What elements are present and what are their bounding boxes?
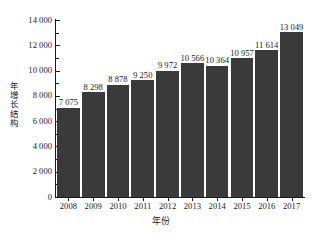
bar-item: 8 878 — [107, 20, 130, 197]
bar-rect — [255, 50, 278, 197]
figure-caption — [0, 236, 321, 247]
bar-rect — [131, 80, 154, 197]
bar-item: 13 049 — [280, 20, 303, 197]
x-tick-label: 2016 — [258, 201, 275, 211]
plot-area: 7 0758 2988 8789 2509 97210 56610 36410 … — [56, 20, 304, 197]
y-tick-label: 8 000 — [33, 91, 52, 100]
bar-value-label: 8 878 — [108, 75, 127, 84]
bar-rect — [206, 66, 229, 197]
bar-item: 10 364 — [206, 20, 229, 197]
y-tick-label: 4 000 — [33, 142, 52, 151]
bar-rect — [181, 63, 204, 197]
x-tick-label: 2013 — [184, 201, 201, 211]
bar-value-label: 10 566 — [181, 54, 205, 63]
bar-rect — [107, 85, 130, 197]
bar-value-label: 7 075 — [59, 98, 78, 107]
y-axis-title: 年增长结构 — [7, 82, 21, 128]
bar-item: 10 566 — [181, 20, 204, 197]
x-tick-label: 2015 — [233, 201, 250, 211]
bar-rect — [156, 71, 179, 197]
bar-rect — [57, 108, 80, 197]
bar-value-label: 11 614 — [255, 41, 278, 50]
bar-rect — [231, 58, 254, 197]
bar-value-label: 9 972 — [158, 61, 177, 70]
x-tick-label: 2017 — [283, 201, 300, 211]
bar-value-label: 9 250 — [133, 71, 152, 80]
bar-item: 8 298 — [82, 20, 105, 197]
y-tick-label: 0 — [48, 193, 52, 202]
x-tick-label: 2009 — [85, 201, 102, 211]
y-tick-label: 12 000 — [28, 41, 52, 50]
y-tick-label: 2 000 — [33, 167, 52, 176]
bar-rect — [280, 32, 303, 197]
bar-value-label: 13 049 — [280, 23, 304, 32]
x-tick-label: 2010 — [109, 201, 126, 211]
bar-rect — [82, 92, 105, 197]
bar-value-label: 10 957 — [230, 49, 254, 58]
bar-series: 7 0758 2988 8789 2509 97210 56610 36410 … — [56, 20, 304, 197]
x-tick-label: 2008 — [60, 201, 77, 211]
y-tick-label: 10 000 — [28, 66, 52, 75]
y-tick-label: 14 000 — [28, 16, 52, 25]
x-axis-title: 年份 — [0, 214, 321, 227]
bar-item: 9 972 — [156, 20, 179, 197]
bar-item: 10 957 — [231, 20, 254, 197]
bar-item: 11 614 — [255, 20, 278, 197]
bar-value-label: 8 298 — [84, 83, 103, 92]
bar-item: 7 075 — [57, 20, 80, 197]
x-tick-label: 2014 — [209, 201, 226, 211]
y-tick-mark — [56, 197, 60, 198]
bar-chart-figure: 年增长结构 02 0004 0006 0008 00010 00012 0001… — [0, 0, 321, 247]
bar-item: 9 250 — [131, 20, 154, 197]
bar-value-label: 10 364 — [205, 56, 229, 65]
x-tick-label: 2011 — [134, 201, 151, 211]
y-tick-label: 6 000 — [33, 117, 52, 126]
x-tick-label: 2012 — [159, 201, 176, 211]
